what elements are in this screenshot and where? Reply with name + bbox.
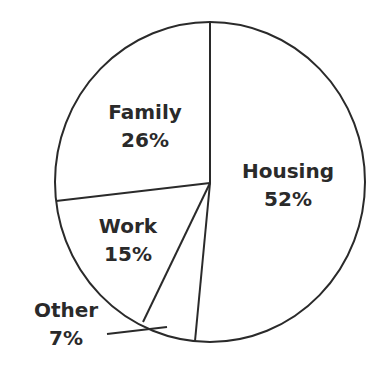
label-housing-name: Housing [233,157,343,185]
label-other-name: Other [28,296,104,324]
label-work: Work 15% [88,212,168,268]
label-work-pct: 15% [88,240,168,268]
label-family: Family 26% [95,98,195,154]
label-housing: Housing 52% [233,157,343,213]
label-housing-pct: 52% [233,185,343,213]
label-work-name: Work [88,212,168,240]
label-family-name: Family [95,98,195,126]
label-other: Other 7% [28,296,104,352]
label-family-pct: 26% [95,126,195,154]
label-other-pct: 7% [28,324,104,352]
